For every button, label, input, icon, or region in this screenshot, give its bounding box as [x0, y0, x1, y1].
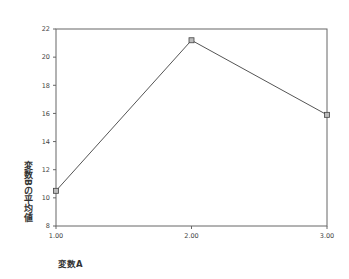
x-tick-label: 3.00 — [320, 232, 334, 240]
y-tick-label: 10 — [42, 194, 50, 202]
y-tick-label: 14 — [42, 138, 50, 146]
y-tick-label: 16 — [42, 110, 50, 118]
y-tick-label: 22 — [42, 25, 50, 33]
y-axis: 222018161412108 — [42, 25, 56, 230]
x-tick-label: 1.00 — [49, 232, 63, 240]
x-axis: 1.002.003.00 — [49, 226, 334, 240]
plot-frame — [56, 29, 327, 226]
y-tick-label: 12 — [42, 166, 50, 174]
line-chart: 222018161412108 1.002.003.00 — [0, 0, 349, 279]
series-line — [56, 40, 327, 191]
y-tick-label: 18 — [42, 82, 50, 90]
square-marker-icon — [325, 112, 330, 117]
y-tick-label: 8 — [46, 222, 50, 230]
x-tick-label: 2.00 — [184, 232, 198, 240]
y-axis-label: 変数Bの平均値 — [21, 161, 33, 222]
x-axis-label: 変数A — [58, 257, 83, 269]
square-marker-icon — [54, 188, 59, 193]
y-tick-label: 20 — [42, 53, 50, 61]
square-marker-icon — [189, 38, 194, 43]
data-markers — [54, 38, 330, 194]
